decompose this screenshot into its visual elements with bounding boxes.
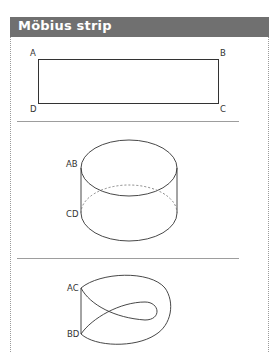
diagram-drawings [0, 0, 269, 352]
strip-rectangle [39, 60, 219, 104]
mobius-shape [81, 275, 171, 344]
cylinder-shape [81, 140, 177, 241]
